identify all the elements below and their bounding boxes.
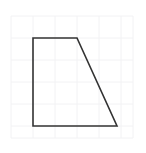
figure-canvas — [0, 0, 146, 153]
figure-svg — [0, 0, 146, 153]
